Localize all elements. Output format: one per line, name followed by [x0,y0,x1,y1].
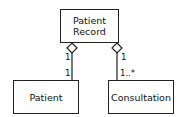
class-patient: Patient [13,80,79,114]
class-consultation: Consultation [108,80,174,114]
class-patient-record: PatientRecord [60,9,119,43]
multiplicity-consultation-target: 1..* [120,68,135,78]
uml-class-diagram: PatientRecord Patient Consultation 1 1 1… [0,0,186,117]
multiplicity-consultation-source: 1 [121,52,126,62]
multiplicity-patient-target: 1 [65,68,70,78]
multiplicity-patient-source: 1 [65,52,70,62]
